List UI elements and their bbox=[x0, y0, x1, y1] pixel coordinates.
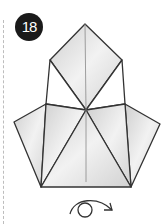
origami-diagram bbox=[0, 0, 167, 224]
paper-model bbox=[14, 24, 160, 187]
turn-over-arrow-icon bbox=[70, 201, 112, 217]
